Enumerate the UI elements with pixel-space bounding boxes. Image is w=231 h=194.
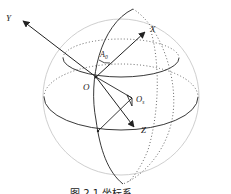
angle-label: A0 [99,50,108,60]
upper-latitude-front [63,58,179,77]
upper-latitude-back [63,39,179,58]
right-angle-marker [127,95,132,106]
y-axis-arrow [23,21,96,77]
angle-label-sub: 0 [105,54,108,60]
z-axis-label: Z [141,125,147,135]
y-axis-label: Y [6,13,12,23]
center-label-sub: s [142,99,144,105]
equator-front [44,97,198,130]
origin-label: O [83,82,90,92]
sphere-diagram: Y X Z O A0 Os 图 2.1 坐标系 [0,0,231,194]
center-label: Os [136,94,144,105]
angle-arc [99,60,110,63]
meridian-back [123,9,174,184]
x-axis-label: X [149,24,156,34]
figure-caption: 图 2.1 坐标系 [70,188,132,194]
os-to-lower-line [98,98,132,131]
origin-point [95,76,98,79]
meridian-front [94,9,133,184]
lower-point [97,130,99,132]
sphere-outline [43,19,199,175]
